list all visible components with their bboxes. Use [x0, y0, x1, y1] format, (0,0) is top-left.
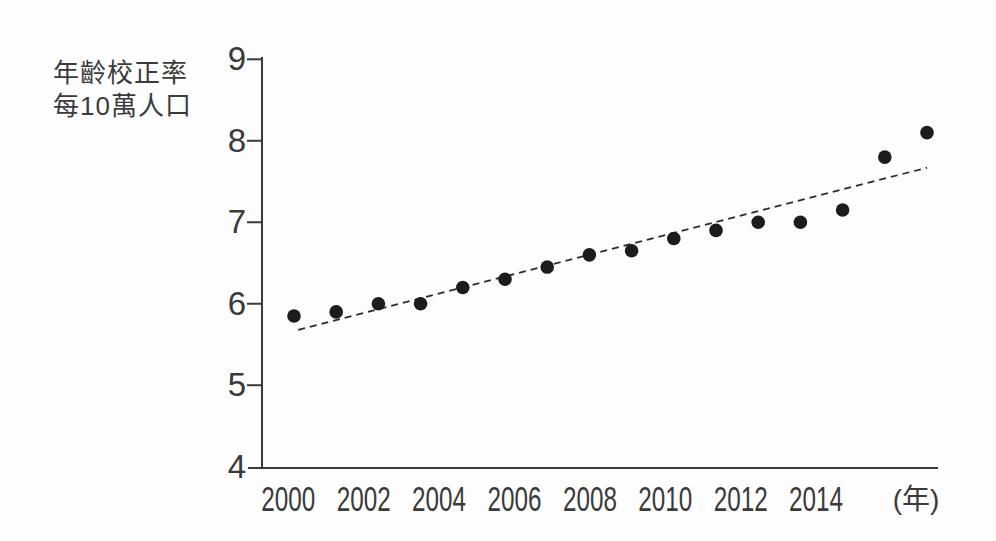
y-tick-label: 8 [228, 122, 246, 159]
data-point [709, 224, 723, 238]
data-point [583, 248, 597, 262]
data-point [540, 260, 554, 274]
trend-line [298, 168, 927, 330]
data-point [794, 215, 808, 229]
data-point [878, 150, 892, 164]
x-tick-label: 2006 [488, 479, 542, 518]
x-tick-label: 2012 [714, 479, 768, 518]
data-point [329, 305, 343, 319]
y-tick-label: 5 [228, 366, 246, 403]
data-point [456, 281, 470, 295]
data-point [414, 297, 428, 311]
scatter-chart-figure: 年齡校正率 每10萬人口 987654200020022004200620082… [0, 0, 996, 541]
data-point [667, 232, 681, 246]
data-point [625, 244, 639, 258]
y-tick-label: 4 [228, 448, 246, 485]
data-point [920, 126, 934, 140]
data-point [372, 297, 386, 311]
y-tick-label: 9 [228, 40, 246, 77]
y-axis-title: 年齡校正率 每10萬人口 [53, 57, 192, 123]
x-tick-label: 2008 [563, 479, 617, 518]
data-point [751, 215, 765, 229]
y-tick-label: 7 [228, 203, 246, 240]
x-tick-label: 2004 [412, 479, 466, 518]
x-tick-label: 2002 [337, 479, 391, 518]
y-axis-title-line2: 每10萬人口 [53, 90, 192, 123]
data-point [287, 309, 301, 323]
x-tick-label: 2014 [789, 479, 843, 518]
x-tick-label: 2010 [638, 479, 692, 518]
x-axis-unit-label: (年) [893, 484, 940, 515]
data-point [836, 203, 850, 217]
y-axis-title-line1: 年齡校正率 [53, 57, 192, 90]
y-tick-label: 6 [228, 285, 246, 322]
data-point [498, 272, 512, 286]
x-tick-label: 2000 [261, 479, 315, 518]
